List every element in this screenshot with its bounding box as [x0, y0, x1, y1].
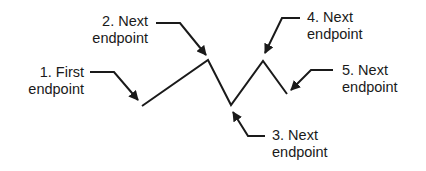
label-next-endpoint-3: 3. Next endpoint: [272, 127, 328, 161]
label-5-line2: endpoint: [342, 79, 398, 96]
label-next-endpoint-4: 4. Next endpoint: [307, 9, 363, 43]
label-next-endpoint-5: 5. Next endpoint: [342, 62, 398, 96]
label-1-line1: 1. First: [14, 64, 84, 81]
arrow-3: [233, 112, 265, 136]
label-4-line1: 4. Next: [307, 9, 363, 26]
polyline: [142, 60, 287, 106]
label-3-line2: endpoint: [272, 144, 328, 161]
label-first-endpoint: 1. First endpoint: [14, 64, 84, 98]
label-5-line1: 5. Next: [342, 62, 398, 79]
label-3-line1: 3. Next: [272, 127, 328, 144]
label-next-endpoint-2: 2. Next endpoint: [78, 13, 148, 47]
arrow-1: [90, 72, 138, 100]
arrow-4: [265, 18, 300, 53]
label-4-line2: endpoint: [307, 26, 363, 43]
polyline-endpoint-diagram: 1. First endpoint 2. Next endpoint 3. Ne…: [0, 0, 426, 171]
arrow-2: [156, 23, 206, 55]
label-2-line2: endpoint: [78, 30, 148, 47]
label-2-line1: 2. Next: [78, 13, 148, 30]
arrow-5: [291, 70, 333, 90]
label-1-line2: endpoint: [14, 81, 84, 98]
